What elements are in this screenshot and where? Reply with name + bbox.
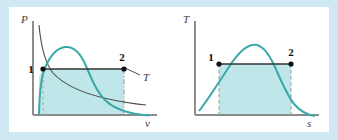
state-1-label: 1 (28, 63, 34, 75)
pressure-volume-diagram: P v 1 2 T (9, 7, 169, 132)
state-1-label: 1 (208, 51, 214, 63)
state-2-label: 2 (288, 46, 294, 58)
figure-panel: P v 1 2 T (9, 7, 329, 132)
y-axis-label: T (183, 13, 190, 25)
state-point-2 (288, 61, 293, 66)
x-axis-label: s (307, 117, 311, 129)
shaded-heat-area (219, 64, 291, 115)
state-point-1 (216, 61, 221, 66)
figure-container: P v 1 2 T (0, 0, 338, 140)
isotherm-leader-line (125, 68, 140, 75)
x-axis-label: v (145, 117, 150, 129)
isotherm-label: T (143, 71, 150, 83)
state-point-1 (40, 66, 45, 71)
state-2-label: 2 (119, 51, 125, 63)
temperature-entropy-diagram: T s 1 2 (169, 7, 329, 132)
state-point-2 (121, 66, 126, 71)
y-axis-label: P (20, 13, 28, 25)
